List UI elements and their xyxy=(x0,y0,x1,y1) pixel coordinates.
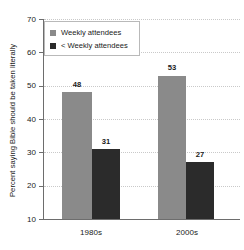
bar-value-2000s-weekly: 53 xyxy=(157,63,187,72)
legend-item-weekly-attendees: Weekly attendees xyxy=(50,26,134,39)
y-tick-label-40: 40 xyxy=(12,115,36,124)
x-category-label-2000s: 2000s xyxy=(157,228,217,237)
legend-swatch-icon-weekly-attendees xyxy=(50,30,56,36)
bar-value-2000s-less-than-weekly: 27 xyxy=(185,150,215,159)
y-tick-label-70: 70 xyxy=(12,15,36,24)
bar-1980s-weekly-attendees xyxy=(62,92,92,219)
x-axis-line xyxy=(43,219,240,220)
bar-1980s-less-than-weekly-attendees xyxy=(92,149,120,219)
bar-value-1980s-weekly: 48 xyxy=(62,80,92,89)
legend-item-less-than-weekly-attendees: < Weekly attendees xyxy=(50,39,134,52)
bar-value-1980s-less-than-weekly: 31 xyxy=(91,137,121,146)
x-category-label-1980s: 1980s xyxy=(61,228,121,237)
y-tick-label-10: 10 xyxy=(12,215,36,224)
legend-swatch-icon-less-than-weekly-attendees xyxy=(50,43,56,49)
bar-chart: Percent saying Bible should be taken lit… xyxy=(0,0,244,250)
legend: Weekly attendees < Weekly attendees xyxy=(44,21,140,56)
bar-2000s-less-than-weekly-attendees xyxy=(186,162,214,219)
bar-2000s-weekly-attendees xyxy=(158,76,186,219)
y-tick-label-30: 30 xyxy=(12,148,36,157)
y-tick-label-50: 50 xyxy=(12,81,36,90)
y-tick-label-20: 20 xyxy=(12,181,36,190)
legend-label-weekly-attendees: Weekly attendees xyxy=(61,28,121,37)
y-tick-label-60: 60 xyxy=(12,48,36,57)
legend-label-less-than-weekly-attendees: < Weekly attendees xyxy=(61,41,128,50)
gridline-70 xyxy=(44,19,240,20)
